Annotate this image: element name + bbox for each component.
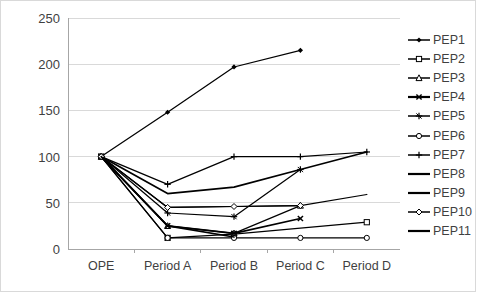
legend-label: PEP5: [432, 110, 465, 122]
y-axis-tick-label: 150: [4, 103, 60, 118]
legend-marker-icon: [406, 130, 432, 142]
legend-label: PEP1: [432, 34, 465, 46]
legend-item-pep11[interactable]: PEP11: [406, 224, 471, 238]
legend-label: PEP7: [432, 149, 465, 161]
legend-label: PEP2: [432, 53, 465, 65]
legend-marker-icon: [406, 91, 432, 103]
legend-label: PEP10: [432, 206, 472, 218]
legend-marker-icon: [406, 110, 432, 122]
legend-marker-icon: [406, 168, 432, 180]
legend-item-pep1[interactable]: PEP1: [406, 33, 465, 47]
legend-marker-icon: [406, 34, 432, 46]
series-pep3: [98, 153, 303, 235]
y-axis-tick-label: 100: [4, 149, 60, 164]
y-axis-tick-label: 50: [4, 195, 60, 210]
legend-item-pep3[interactable]: PEP3: [406, 71, 465, 85]
legend-item-pep7[interactable]: PEP7: [406, 148, 465, 162]
legend-item-pep10[interactable]: PEP10: [406, 205, 472, 219]
legend-item-pep8[interactable]: PEP8: [406, 167, 465, 181]
chart-legend: PEP1PEP2PEP3PEP4PEP5PEP6PEP7PEP8PEP9PEP1…: [406, 33, 476, 243]
legend-label: PEP8: [432, 168, 465, 180]
y-axis-tick-label: 200: [4, 57, 60, 72]
series-pep7: [98, 149, 370, 188]
legend-item-pep9[interactable]: PEP9: [406, 186, 465, 200]
x-axis-tick-label: OPE: [88, 259, 114, 273]
legend-item-pep6[interactable]: PEP6: [406, 129, 465, 143]
legend-item-pep4[interactable]: PEP4: [406, 90, 465, 104]
x-axis-tick-label: Period C: [276, 259, 325, 273]
legend-label: PEP3: [432, 72, 465, 84]
legend-label: PEP6: [432, 130, 465, 142]
y-axis-tick-label: 0: [4, 242, 60, 257]
legend-label: PEP4: [432, 91, 465, 103]
legend-label: PEP11: [432, 225, 471, 237]
legend-marker-icon: [406, 187, 432, 199]
legend-item-pep2[interactable]: PEP2: [406, 52, 465, 66]
legend-marker-icon: [406, 53, 432, 65]
x-axis-tick-label: Period B: [210, 259, 258, 273]
legend-marker-icon: [406, 72, 432, 84]
legend-item-pep5[interactable]: PEP5: [406, 109, 465, 123]
series-pep4: [99, 154, 303, 236]
plot-area: [66, 14, 408, 255]
chart-container: 050100150200250 OPEPeriod APeriod BPerio…: [0, 0, 477, 293]
legend-marker-icon: [406, 206, 432, 218]
x-axis-tick-label: Period D: [342, 259, 391, 273]
legend-marker-icon: [406, 149, 432, 161]
legend-marker-icon: [406, 225, 432, 237]
legend-label: PEP9: [432, 187, 465, 199]
y-axis-tick-label: 250: [4, 11, 60, 26]
series-pep9: [101, 157, 367, 208]
x-axis-tick-label: Period A: [144, 259, 191, 273]
series-pep10: [98, 154, 303, 211]
